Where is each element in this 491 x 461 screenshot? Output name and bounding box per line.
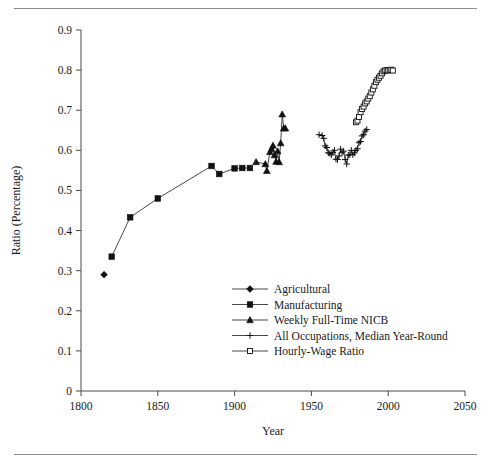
data-point-triangle	[277, 140, 284, 146]
x-tick-label: 1800	[70, 400, 93, 412]
data-point-filled-square	[247, 302, 253, 308]
data-point-filled-square	[155, 196, 161, 202]
data-point-diamond	[247, 286, 254, 293]
legend-label: Manufacturing	[274, 299, 343, 312]
chart-legend: AgriculturalManufacturingWeekly Full-Tim…	[232, 283, 448, 358]
y-tick-label: 0.4	[58, 225, 73, 237]
series-weekly-full-time-nicb	[253, 111, 289, 174]
y-tick-label: 0.6	[58, 144, 73, 156]
data-point-triangle	[263, 167, 270, 173]
series-hourly-wage-ratio	[353, 67, 395, 125]
chart-svg: 180018501900195020002050Year00.10.20.30.…	[0, 0, 491, 461]
data-point-triangle	[279, 111, 286, 117]
y-tick-label: 0.8	[58, 64, 73, 76]
x-tick-label: 2000	[377, 400, 400, 412]
data-point-plus	[247, 332, 253, 338]
data-point-plus	[322, 143, 328, 149]
data-point-triangle	[270, 142, 277, 148]
x-tick-label: 1900	[223, 400, 246, 412]
x-tick-label: 1950	[300, 400, 323, 412]
y-tick-label: 0.9	[58, 24, 73, 36]
data-point-filled-square	[109, 254, 115, 260]
data-point-filled-square	[239, 165, 245, 171]
data-point-plus	[336, 153, 342, 159]
data-point-plus	[320, 135, 326, 141]
data-point-open-square	[357, 115, 362, 120]
series-line	[112, 166, 250, 257]
legend-label: Weekly Full-Time NICB	[274, 314, 389, 327]
x-axis-title: Year	[262, 424, 284, 438]
data-point-plus	[319, 132, 325, 138]
data-point-diamond	[101, 271, 108, 278]
y-tick-label: 0.1	[58, 345, 73, 357]
y-axis-title: Ratio (Percentage)	[9, 166, 23, 256]
data-point-filled-square	[216, 171, 222, 177]
data-point-plus	[362, 128, 368, 134]
y-tick-label: 0.3	[58, 265, 73, 277]
y-tick-label: 0.2	[58, 305, 73, 317]
data-point-open-square	[248, 349, 253, 354]
y-tick-label: 0.7	[58, 104, 73, 116]
legend-label: Hourly-Wage Ratio	[274, 345, 364, 358]
series-manufacturing	[109, 163, 253, 259]
chart-page: 180018501900195020002050Year00.10.20.30.…	[0, 0, 491, 461]
series-all-occupations-median-year-round	[316, 126, 370, 167]
data-point-filled-square	[232, 166, 238, 172]
legend-label: Agricultural	[274, 283, 330, 296]
data-point-plus	[344, 161, 350, 167]
chart-canvas: 180018501900195020002050Year00.10.20.30.…	[0, 0, 491, 461]
x-tick-label: 2050	[454, 400, 477, 412]
legend-label: All Occupations, Median Year-Round	[274, 330, 448, 343]
data-point-filled-square	[209, 163, 215, 169]
series-line	[319, 129, 367, 163]
data-point-filled-square	[127, 215, 133, 221]
data-point-open-square	[390, 68, 395, 73]
x-tick-label: 1850	[146, 400, 169, 412]
series-agricultural	[101, 271, 108, 278]
data-point-plus	[316, 131, 322, 137]
y-tick-label: 0.5	[58, 184, 73, 196]
y-tick-label: 0	[66, 385, 72, 397]
data-point-plus	[324, 144, 330, 150]
